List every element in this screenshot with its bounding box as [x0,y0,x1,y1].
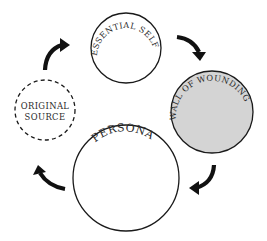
arrow-wall-to-persona [189,165,214,195]
arrow-original-to-essential [45,38,70,70]
cycle-diagram: ESSENTIAL SELF WALL OF WOUNDING PERSONA … [0,0,267,241]
arrow-persona-to-original [33,165,65,189]
node-original-source: ORIGINAL SOURCE [15,80,75,140]
original-source-label-line1: ORIGINAL [21,101,70,111]
node-essential-self: ESSENTIAL SELF [89,13,161,83]
original-source-label-line2: SOURCE [25,112,66,122]
node-persona: PERSONA [73,121,179,231]
node-wall-of-wounding: WALL OF WOUNDING [168,71,253,153]
persona-circle [73,125,179,231]
arrow-essential-to-wall [177,37,206,61]
wall-of-wounding-circle [171,71,253,153]
